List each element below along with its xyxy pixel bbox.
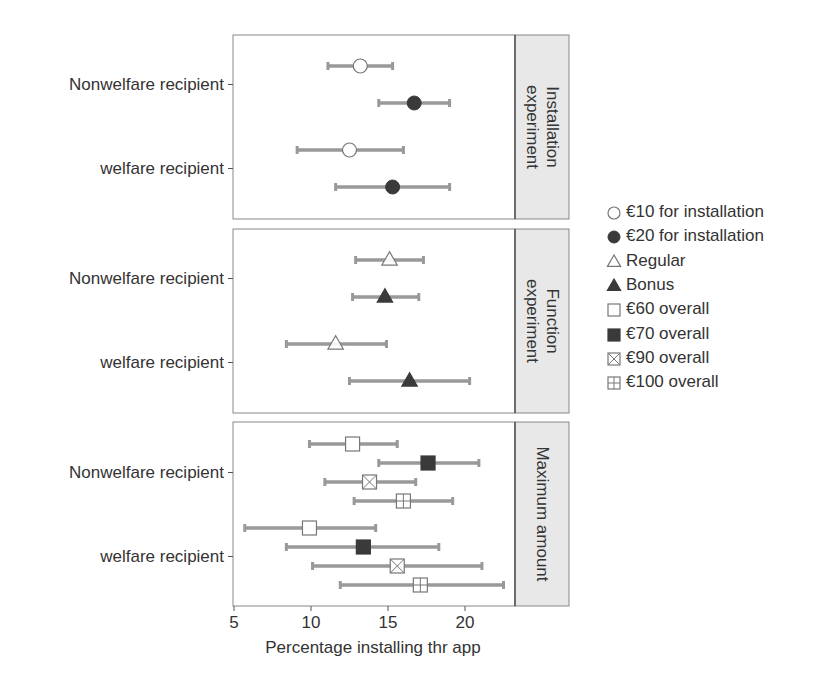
legend-item: €10 for installation [605,200,764,224]
facet-strip-label: experiment [523,85,542,169]
facet-panel-1: InstallationexperimentNonwelfare recipie… [69,35,569,219]
x-tick-label: 15 [379,613,398,632]
facet-strip-label: Function [543,288,562,353]
y-axis-label: Nonwelfare recipient [69,75,224,94]
y-axis-label: welfare recipient [99,353,224,372]
x-tick-label: 5 [229,613,238,632]
square-open-marker [346,437,360,451]
legend-label: Bonus [626,275,674,295]
legend: €10 for installation€20 for installation… [605,200,764,394]
square-cross-icon [605,349,623,367]
plot-area [233,35,515,219]
legend-item: €100 overall [605,370,764,394]
circle-filled-marker [608,231,620,243]
facet-strip-label: experiment [523,279,542,363]
y-axis-label: welfare recipient [99,547,224,566]
x-axis-title: Percentage installing thr app [265,638,480,657]
square-filled-marker [356,540,370,554]
x-axis: 5101520Percentage installing thr app [229,606,480,657]
triangle-filled-icon [605,276,623,294]
square-open-icon [605,300,623,318]
legend-label: €20 for installation [626,226,764,246]
facet-panel-2: FunctionexperimentNonwelfare recipientwe… [69,229,569,413]
legend-label: Regular [626,251,686,271]
legend-item: Bonus [605,273,764,297]
legend-label: €100 overall [626,372,719,392]
triangle-open-marker [607,255,620,266]
y-axis-label: Nonwelfare recipient [69,269,224,288]
facet-strip-label: Maximum amount [533,446,552,581]
circle-filled-marker [386,180,400,194]
triangle-open-icon [605,252,623,270]
circle-open-icon [605,203,623,221]
triangle-filled-marker [607,279,620,290]
square-open-marker [608,304,620,316]
y-axis-label: welfare recipient [99,159,224,178]
circle-filled-marker [407,96,421,110]
x-tick-label: 10 [302,613,321,632]
legend-label: €70 overall [626,324,709,344]
facet-strip-label: Installation [543,86,562,167]
y-axis-label: Nonwelfare recipient [69,463,224,482]
legend-item: €90 overall [605,346,764,370]
legend-item: Regular [605,249,764,273]
legend-label: €10 for installation [626,202,764,222]
square-filled-icon [605,325,623,343]
square-filled-marker [421,456,435,470]
square-open-marker [302,521,316,535]
circle-open-marker [608,207,620,219]
plot-area [233,422,515,606]
legend-item: €60 overall [605,297,764,321]
legend-label: €90 overall [626,348,709,368]
x-tick-label: 20 [456,613,475,632]
square-plus-icon [605,373,623,391]
circle-open-marker [343,143,357,157]
facet-panel-3: Maximum amountNonwelfare recipientwelfar… [69,422,569,606]
circle-open-marker [353,59,367,73]
square-filled-marker [608,329,620,341]
legend-label: €60 overall [626,299,709,319]
plot-area [233,229,515,413]
circle-filled-icon [605,227,623,245]
legend-item: €20 for installation [605,224,764,248]
legend-item: €70 overall [605,321,764,345]
